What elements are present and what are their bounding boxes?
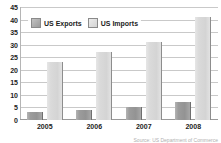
bar-imports <box>195 17 211 120</box>
bar-group <box>169 7 219 120</box>
y-tick-label: 30 <box>0 42 18 49</box>
y-tick-label: 35 <box>0 29 18 36</box>
bar-exports <box>76 110 92 120</box>
source-note: Source: US Department of Commerce <box>134 137 218 143</box>
bar-imports <box>47 62 63 120</box>
x-tick-label: 2007 <box>119 123 169 130</box>
y-tick-label: 15 <box>0 79 18 86</box>
y-tick-label: 45 <box>0 4 18 11</box>
y-tick-label: 0 <box>0 117 18 124</box>
bar-imports <box>96 52 112 120</box>
bar-chart: 45 40 35 30 25 20 15 10 5 0 2005 2006 20… <box>0 0 221 143</box>
x-axis-labels: 2005 2006 2007 2008 <box>20 123 218 130</box>
bar-imports <box>146 42 162 120</box>
legend-item-us-imports: US Imports <box>88 18 138 28</box>
x-tick-label: 2008 <box>169 123 219 130</box>
y-tick-label: 20 <box>0 67 18 74</box>
bar-exports <box>126 107 142 120</box>
chart-legend: US Exports US Imports <box>28 17 141 29</box>
y-tick-label: 40 <box>0 17 18 24</box>
y-tick-label: 10 <box>0 92 18 99</box>
bar-exports <box>175 102 191 120</box>
y-tick-label: 5 <box>0 104 18 111</box>
legend-label: US Imports <box>101 20 138 27</box>
legend-item-us-exports: US Exports <box>31 18 82 28</box>
y-axis-ticks: 45 40 35 30 25 20 15 10 5 0 <box>0 7 18 120</box>
legend-swatch-icon <box>88 18 98 28</box>
y-tick-label: 25 <box>0 54 18 61</box>
x-tick-label: 2005 <box>20 123 70 130</box>
bar-exports <box>27 112 43 120</box>
legend-label: US Exports <box>44 20 82 27</box>
x-tick-label: 2006 <box>70 123 120 130</box>
legend-swatch-icon <box>31 18 41 28</box>
